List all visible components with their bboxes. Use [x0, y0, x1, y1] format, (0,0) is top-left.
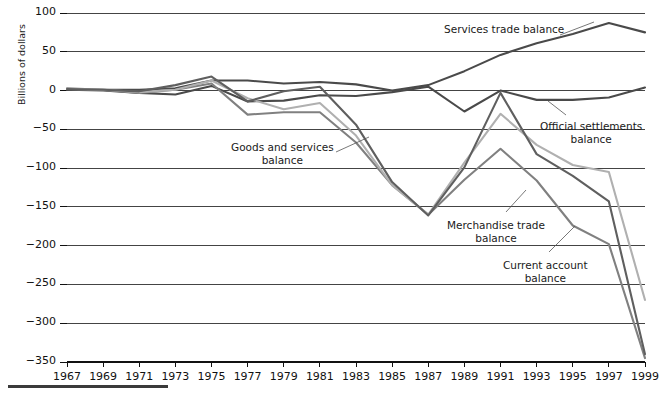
x-axis-tick-label: 1985 [372, 370, 412, 383]
series-line-current-account-balance [67, 77, 645, 355]
x-axis-tick-label: 1983 [336, 370, 376, 383]
x-axis-tick-label: 1973 [155, 370, 195, 383]
x-axis-tick-label: 1993 [517, 370, 557, 383]
annotation-leader-line [506, 190, 526, 212]
x-axis-tick-label: 1971 [119, 370, 159, 383]
y-axis-tick-label: −250 [10, 276, 56, 289]
x-axis-tick-label: 1977 [228, 370, 268, 383]
annotation-line: balance [503, 272, 588, 285]
y-axis-tick-label: −150 [10, 199, 56, 212]
y-axis-tick-label: 0 [10, 83, 56, 96]
x-axis-tick-label: 1991 [481, 370, 521, 383]
footer-rule [8, 385, 168, 388]
annotation-merchandise-trade-balance: Merchandise tradebalance [447, 219, 545, 245]
annotation-line: balance [447, 232, 545, 245]
y-axis-tick-label: −200 [10, 238, 56, 251]
annotation-leader-line [548, 101, 566, 115]
annotation-line: Merchandise trade [447, 219, 545, 232]
x-axis-tick-label: 1981 [300, 370, 340, 383]
x-axis-tick-label: 1989 [444, 370, 484, 383]
y-axis-tick-label: 50 [10, 44, 56, 57]
annotation-line: Official settlements [540, 120, 642, 133]
x-axis-tick-label: 1979 [264, 370, 304, 383]
annotation-official-settlements-balance: Official settlementsbalance [540, 120, 642, 146]
y-axis-tick-label: −50 [10, 121, 56, 134]
annotation-line: Goods and services [231, 141, 334, 154]
annotation-leader-line [549, 226, 575, 252]
annotation-line: Current account [503, 259, 588, 272]
annotation-line: balance [231, 154, 334, 167]
x-axis-tick-label: 1975 [192, 370, 232, 383]
y-axis-tick-label: 100 [10, 5, 56, 18]
y-axis-tick-label: −100 [10, 160, 56, 173]
x-axis-tick-label: 1995 [553, 370, 593, 383]
y-axis-tick-label: −300 [10, 315, 56, 328]
annotation-line: balance [540, 133, 642, 146]
x-axis-tick-label: 1997 [589, 370, 629, 383]
annotation-services-trade-balance: Services trade balance [444, 23, 564, 36]
x-axis-tick-label: 1999 [625, 370, 663, 383]
annotation-line: Services trade balance [444, 23, 564, 36]
x-axis-tick-label: 1967 [47, 370, 87, 383]
annotation-goods-and-services-balance: Goods and servicesbalance [231, 141, 334, 167]
annotation-current-account-balance: Current accountbalance [503, 259, 588, 285]
x-axis-tick-label: 1987 [408, 370, 448, 383]
x-axis-tick-label: 1969 [83, 370, 123, 383]
y-axis-tick-label: −350 [10, 354, 56, 367]
